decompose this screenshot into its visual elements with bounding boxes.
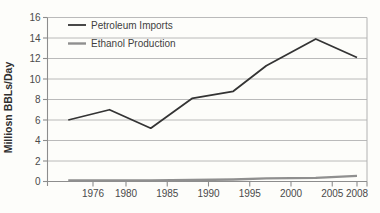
- ethanol-production-line: [68, 176, 357, 181]
- x-tick-label: 1980: [115, 188, 138, 199]
- x-tick-label: 1990: [197, 188, 220, 199]
- petroleum-imports-line: [68, 39, 357, 128]
- y-axis-title: Milliosn BBLs/Day: [2, 62, 14, 154]
- y-tick-label: 14: [29, 33, 41, 44]
- y-tick-label: 12: [29, 53, 41, 64]
- x-tick-label: 2000: [280, 188, 303, 199]
- y-tick-label: 6: [35, 115, 41, 126]
- y-tick-label: 10: [29, 74, 41, 85]
- y-tick-label: 0: [35, 176, 41, 187]
- legend-label-1: Petroleum Imports: [91, 20, 173, 31]
- x-tick-label: 1995: [239, 188, 262, 199]
- x-tick-label: 2005: [321, 188, 344, 199]
- y-tick-label: 16: [29, 12, 41, 23]
- line-chart: 0246810121416197619801985199019952000200…: [0, 0, 380, 213]
- chart-figure: 0246810121416197619801985199019952000200…: [0, 0, 380, 213]
- x-tick-label: 1976: [82, 188, 105, 199]
- y-tick-label: 8: [35, 94, 41, 105]
- y-tick-label: 2: [35, 156, 41, 167]
- x-tick-label: 1985: [156, 188, 179, 199]
- legend-label-2: Ethanol Production: [91, 38, 176, 49]
- x-tick-label: 2008: [346, 188, 369, 199]
- y-tick-label: 4: [35, 135, 41, 146]
